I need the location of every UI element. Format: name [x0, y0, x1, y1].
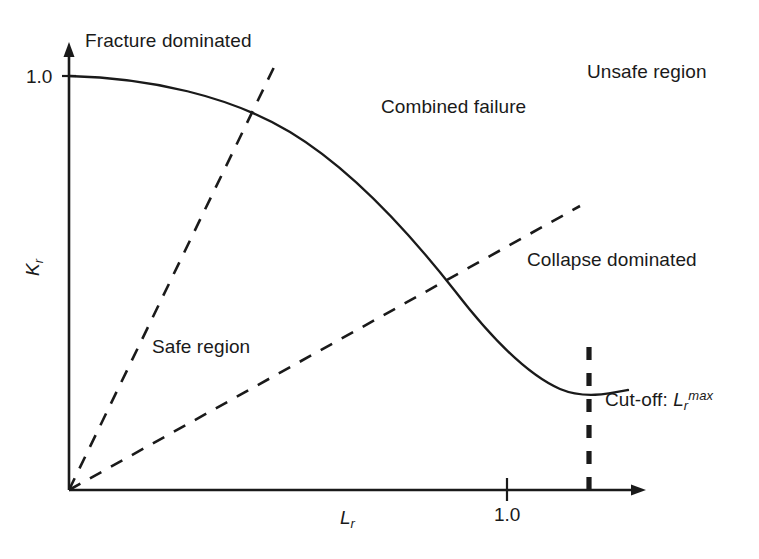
label-cutoff-prefix: Cut-off: — [605, 389, 673, 410]
x-axis-title-subscript: r — [351, 516, 355, 531]
x-axis-arrowhead — [631, 485, 646, 496]
y-axis-arrowhead — [64, 42, 75, 57]
label-collapse-dominated: Collapse dominated — [527, 250, 697, 269]
x-axis-title: Lr — [340, 508, 355, 527]
label-cutoff: Cut-off: Lrmax — [605, 390, 713, 409]
label-safe-region: Safe region — [152, 337, 250, 356]
y-axis-title: Kr — [23, 259, 42, 276]
label-combined-failure: Combined failure — [381, 97, 526, 116]
x-axis-tick-label-one: 1.0 — [494, 505, 520, 524]
y-axis-title-symbol: K — [22, 263, 43, 276]
y-axis-tick-label-one: 1.0 — [26, 67, 52, 86]
diagram-canvas — [0, 0, 759, 559]
failure-assessment-diagram: Kr Lr 1.0 1.0 Fracture dominated Combine… — [0, 0, 759, 559]
label-fracture-dominated: Fracture dominated — [85, 31, 252, 50]
x-axis-title-symbol: L — [340, 507, 351, 528]
label-unsafe-region: Unsafe region — [587, 62, 707, 81]
label-cutoff-superscript: max — [688, 388, 713, 403]
y-axis-title-subscript: r — [31, 259, 46, 263]
label-cutoff-symbol: L — [673, 389, 684, 410]
fracture-combined-boundary — [69, 61, 277, 490]
